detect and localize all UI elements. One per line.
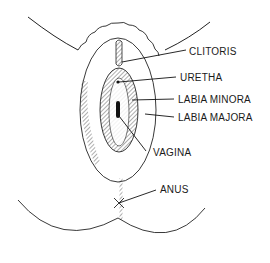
clitoral-hood bbox=[116, 40, 122, 66]
left-groin-outline bbox=[28, 17, 78, 50]
leader-labia-majora bbox=[145, 114, 174, 117]
label-labia-minora: LABIA MINORA bbox=[178, 94, 251, 105]
label-anus: ANUS bbox=[160, 184, 189, 195]
diagram-drawing bbox=[0, 0, 270, 263]
leader-anus bbox=[119, 190, 156, 203]
label-clitoris: CLITORIS bbox=[189, 46, 237, 57]
labia-majora-left-hatch bbox=[81, 80, 100, 165]
label-uretha: URETHA bbox=[180, 72, 222, 83]
anatomy-diagram: CLITORIS URETHA LABIA MINORA LABIA MAJOR… bbox=[0, 0, 270, 263]
leader-clitoris bbox=[122, 50, 186, 62]
vaginal-opening bbox=[116, 101, 120, 118]
left-buttock bbox=[18, 200, 118, 230]
label-labia-majora: LABIA MAJORA bbox=[178, 112, 253, 123]
leader-labia-minora bbox=[132, 99, 174, 100]
label-vagina: VAGINA bbox=[153, 147, 191, 158]
right-buttock bbox=[118, 208, 205, 233]
